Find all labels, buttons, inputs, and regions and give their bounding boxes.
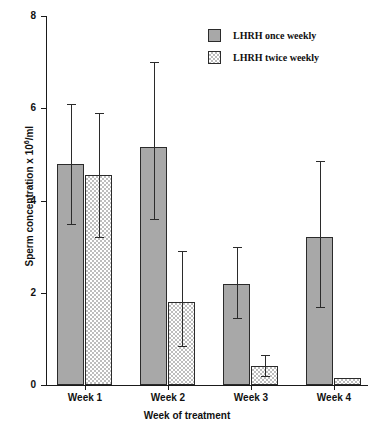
x-category-label-week-4: Week 4	[304, 392, 364, 403]
error-bar-cap-lower-lhrh-twice-weekly-week-1	[95, 237, 104, 238]
error-bar-stem-lhrh-twice-weekly-week-2	[182, 251, 183, 346]
error-bar-cap-lower-lhrh-twice-weekly-week-2	[178, 346, 187, 347]
legend-label-once-weekly: LHRH once weekly	[233, 30, 316, 41]
error-bar-stem-lhrh-once-weekly-week-1	[71, 104, 72, 224]
error-bar-cap-lower-lhrh-once-weekly-week-4	[316, 307, 325, 308]
error-bar-cap-upper-lhrh-once-weekly-week-2	[150, 62, 159, 63]
error-bar-cap-upper-lhrh-once-weekly-week-1	[67, 104, 76, 105]
y-axis-title: Sperm concentration x 106/ml	[23, 81, 35, 311]
y-tick-6	[41, 108, 47, 109]
error-bar-cap-lower-lhrh-once-weekly-week-2	[150, 219, 159, 220]
legend-swatch-twice-weekly-icon	[208, 51, 221, 64]
x-axis-title: Week of treatment	[0, 410, 374, 421]
error-bar-stem-lhrh-once-weekly-week-4	[320, 161, 321, 306]
sperm-concentration-bar-chart: 02468 Week 1Week 2Week 3Week 4 Sperm con…	[0, 0, 374, 431]
error-bar-cap-lower-lhrh-once-weekly-week-1	[67, 224, 76, 225]
y-axis-title-prefix: Sperm concentration x 10	[24, 144, 35, 266]
legend-label-twice-weekly: LHRH twice weekly	[233, 52, 319, 63]
y-tick-4	[41, 201, 47, 202]
legend-swatch-once-weekly-icon	[208, 29, 221, 42]
y-tick-0	[41, 385, 47, 386]
legend-item-once-weekly: LHRH once weekly	[208, 24, 319, 46]
y-axis-title-exponent: 6	[23, 140, 30, 144]
error-bar-stem-lhrh-once-weekly-week-3	[237, 247, 238, 318]
x-category-label-week-3: Week 3	[221, 392, 281, 403]
x-tick-3	[251, 385, 252, 390]
error-bar-cap-upper-lhrh-once-weekly-week-4	[316, 161, 325, 162]
error-bar-cap-upper-lhrh-once-weekly-week-3	[233, 247, 242, 248]
error-bar-cap-upper-lhrh-twice-weekly-week-3	[261, 355, 270, 356]
x-category-label-week-1: Week 1	[55, 392, 115, 403]
y-tick-label-0: 0	[14, 379, 36, 390]
x-axis-line	[46, 385, 368, 386]
error-bar-cap-lower-lhrh-once-weekly-week-3	[233, 318, 242, 319]
x-tick-2	[168, 385, 169, 390]
error-bar-cap-upper-lhrh-twice-weekly-week-1	[95, 113, 104, 114]
y-tick-8	[41, 16, 47, 17]
error-bar-cap-upper-lhrh-twice-weekly-week-2	[178, 251, 187, 252]
error-bar-stem-lhrh-twice-weekly-week-3	[265, 355, 266, 376]
bar-lhrh-twice-weekly-week-4	[334, 378, 361, 385]
y-tick-2	[41, 293, 47, 294]
legend-item-twice-weekly: LHRH twice weekly	[208, 46, 319, 68]
y-axis-title-suffix: /ml	[24, 126, 35, 140]
error-bar-stem-lhrh-twice-weekly-week-1	[99, 113, 100, 238]
chart-legend: LHRH once weekly LHRH twice weekly	[208, 24, 319, 68]
error-bar-cap-lower-lhrh-twice-weekly-week-3	[261, 376, 270, 377]
x-tick-4	[334, 385, 335, 390]
x-category-label-week-2: Week 2	[138, 392, 198, 403]
error-bar-stem-lhrh-once-weekly-week-2	[154, 62, 155, 219]
y-tick-label-8: 8	[14, 10, 36, 21]
x-tick-1	[85, 385, 86, 390]
